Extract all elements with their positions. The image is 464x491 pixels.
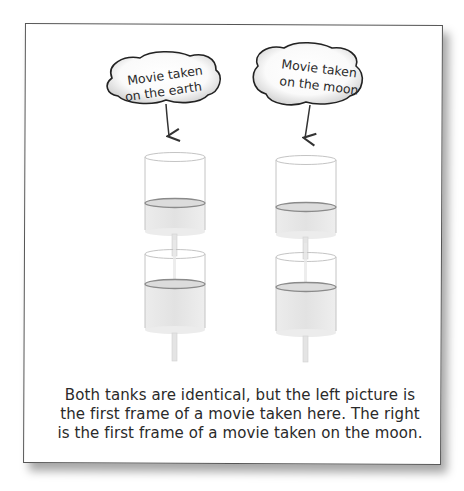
moon-tank-stack (276, 156, 336, 363)
moon-upper-water-surface (276, 203, 336, 212)
caption-line-1: Both tanks are identical, but the left p… (40, 386, 440, 405)
caption-line-3: is the first frame of a movie taken on t… (40, 424, 440, 443)
moon-upper-tank (276, 156, 336, 240)
arrow-earth (166, 104, 169, 136)
arrow-moon (305, 105, 310, 138)
moon-lower-tank (276, 243, 336, 337)
moon-lower-water-surface (276, 283, 336, 292)
caption: Both tanks are identical, but the left p… (40, 386, 440, 443)
earth-drain-pipe (172, 333, 177, 361)
earth-lower-tank (145, 240, 205, 334)
speech-bubble-earth: Movie taken on the earth (107, 52, 220, 105)
moon-drain-pipe (303, 336, 308, 362)
speech-bubble-moon: Movie taken on the moon (253, 43, 362, 105)
caption-line-2: the first frame of a movie taken here. T… (40, 405, 440, 424)
earth-tank-stack (145, 153, 205, 362)
earth-lower-water-surface (145, 280, 205, 289)
earth-upper-tank (145, 153, 205, 237)
earth-upper-water-surface (145, 199, 205, 208)
